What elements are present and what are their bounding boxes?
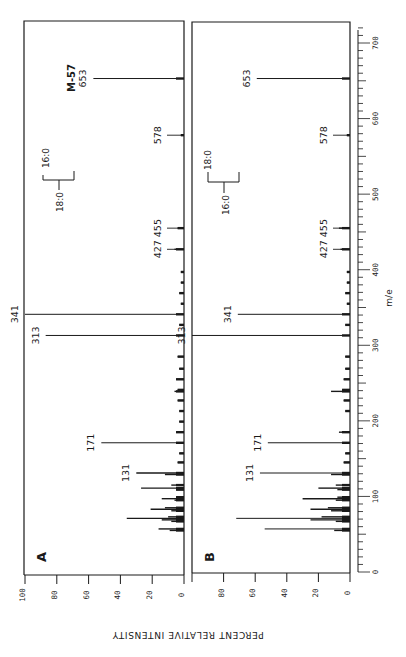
intensity-tick-label: 0: [177, 592, 186, 597]
mz-tick-label: 700: [371, 36, 380, 50]
peak-label: 455: [152, 219, 163, 237]
intensity-tick-label: 20: [311, 588, 320, 598]
intensity-tick-label: 60: [248, 588, 257, 598]
y-axis-title: PERCENT RELATIVE INTENSITY: [112, 630, 264, 640]
panel-a-frame: [24, 21, 184, 575]
bracket-a-upper-label: 16:0: [41, 148, 51, 168]
mz-tick-label: 600: [371, 111, 380, 125]
bracket-b-upper-label: 18:0: [203, 150, 213, 170]
peak-label: 131: [120, 464, 131, 482]
peak-label: 653: [77, 69, 88, 87]
fatty-acid-bracket-b: 18:0 16:0: [203, 150, 239, 215]
intensity-tick-label: 20: [145, 590, 154, 600]
peak-label: 341: [9, 305, 20, 323]
intensity-tick-label: 80: [217, 588, 226, 598]
intensity-tick-label: 60: [82, 590, 91, 600]
x-axis-title: m/e: [384, 289, 394, 307]
intensity-tick-label: 100: [18, 588, 27, 602]
panel-a-label: A: [34, 552, 49, 562]
panel-b-label: B: [202, 552, 217, 562]
peak-label: 171: [85, 434, 96, 452]
mz-tick-label: 400: [371, 262, 380, 276]
intensity-axis: 020406080100020406080: [18, 573, 352, 602]
mz-tick-label: 500: [371, 187, 380, 201]
mz-tick-label: 100: [371, 489, 380, 503]
mass-spectrum-chart: 131171313341427455578653 131171313341427…: [0, 0, 406, 657]
mz-tick-label: 0: [371, 569, 380, 574]
m57-annotation: M-57: [66, 64, 77, 92]
bracket-b-lower-label: 16:0: [221, 195, 231, 215]
mz-tick-label: 200: [371, 414, 380, 428]
peak-label: 578: [152, 126, 163, 144]
peak-label: 313: [30, 326, 41, 344]
peak-label: 455: [318, 219, 329, 237]
mz-tick-label: 300: [371, 338, 380, 352]
panel-b-peaks: 131171313341427455578653: [176, 69, 350, 530]
peak-label: 313: [176, 326, 187, 344]
mass-spectrum-figure: 131171313341427455578653 131171313341427…: [0, 0, 406, 657]
peak-label: 131: [244, 464, 255, 482]
intensity-tick-label: 0: [343, 590, 352, 595]
peak-label: 341: [222, 305, 233, 323]
intensity-tick-label: 40: [113, 590, 122, 600]
fatty-acid-bracket-a: 16:0 18:0: [41, 148, 74, 212]
mz-axis: 0100200300400500600700: [358, 28, 380, 574]
peak-label: 427: [152, 240, 163, 258]
panel-a-peaks: 131171313341427455578653: [9, 69, 184, 530]
peak-label: 427: [318, 240, 329, 258]
intensity-tick-label: 40: [280, 588, 289, 598]
bracket-a-lower-label: 18:0: [55, 192, 65, 212]
intensity-tick-label: 80: [50, 590, 59, 600]
peak-label: 578: [318, 126, 329, 144]
peak-label: 171: [252, 434, 263, 452]
peak-label: 653: [241, 69, 252, 87]
panel-b-frame: [192, 22, 350, 573]
